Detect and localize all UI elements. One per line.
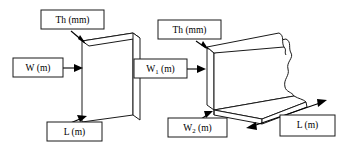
arrow-head-length-right-end [317,99,327,107]
callout-label-width2-symbol: W [183,123,192,133]
right-width1-leader [187,65,206,73]
engineering-diagram: Th (mm) W (m) L (m) [0,0,346,153]
callout-length-left[interactable]: L (m) [47,122,102,141]
callout-label-width2-right: W2 (m) [183,123,211,134]
diagram-canvas: Th (mm) W (m) L (m) [0,0,346,153]
left-thickness-leader [71,31,86,44]
callout-label-width2-suffix: (m) [196,123,212,134]
left-plate-group [82,33,140,122]
callout-width-left[interactable]: W (m) [13,58,63,77]
arrow-head-thickness-right [201,41,209,50]
arrow-head-length-right-start [246,122,257,130]
callout-label-length-right: L (m) [297,120,319,131]
callout-label-length-left: L (m) [64,127,86,138]
callout-label-width-left: W (m) [26,63,51,74]
arrow-head-width2-right [204,111,213,118]
left-width-leader [62,64,83,72]
callout-width2-right[interactable]: W2 (m) [168,118,227,137]
callout-thickness-right[interactable]: Th (mm) [158,20,221,39]
callout-thickness-left[interactable]: Th (mm) [41,10,104,29]
right-folded-sheet-group [207,33,307,124]
arrow-head-width1-right [197,65,206,73]
callout-label-thickness-left: Th (mm) [55,15,89,26]
callout-label-thickness-right: Th (mm) [172,25,206,36]
callout-width1-right[interactable]: W1 (m) [134,59,187,78]
callout-length-right[interactable]: L (m) [280,115,335,136]
flange-left-edge-face [207,47,214,110]
callout-label-width1-suffix: (m) [159,64,175,75]
right-thickness-leader [196,41,209,50]
callout-label-width1-right: W1 (m) [146,64,174,75]
callout-label-width1-symbol: W [146,64,155,74]
